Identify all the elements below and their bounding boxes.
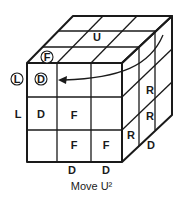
front-cell-label: F	[71, 109, 78, 121]
up-face-label: U	[93, 31, 101, 43]
front-cell-label: F	[71, 139, 78, 151]
left-marker-label: L	[14, 73, 21, 85]
down-label: D	[102, 164, 110, 176]
caption: Move U²	[0, 180, 183, 192]
circled-marker-left: L	[11, 73, 23, 85]
left-side-label: L	[15, 108, 22, 120]
rubiks-cube-diagram: F L D U L D F F F R R R D D D	[0, 0, 183, 203]
right-cell-label: R	[146, 110, 154, 122]
circled-marker-down: D	[35, 73, 47, 85]
circled-marker-front: F	[41, 51, 53, 63]
right-cell-label: R	[146, 84, 154, 96]
down-label: D	[68, 164, 76, 176]
front-marker-label: F	[44, 51, 51, 63]
right-cell-label: R	[127, 129, 135, 141]
front-cell-label: F	[103, 139, 110, 151]
front-cell-label: D	[37, 108, 45, 120]
down-marker-label: D	[37, 73, 45, 85]
down-label: D	[147, 139, 155, 151]
